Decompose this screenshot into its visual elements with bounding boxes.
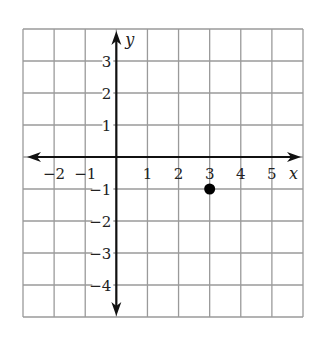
y-tick-label: −1 <box>89 181 111 199</box>
x-tick-label: 3 <box>205 165 215 183</box>
x-tick-label: 1 <box>143 165 153 183</box>
y-tick-label: 3 <box>102 53 112 71</box>
plotted-points <box>204 184 215 195</box>
x-tick-label: −2 <box>43 165 65 183</box>
plotted-point <box>204 184 215 195</box>
x-tick-label: 2 <box>174 165 184 183</box>
y-tick-label: −2 <box>89 213 111 231</box>
x-axis-label: x <box>289 164 298 183</box>
tick-labels: −2−112345321−1−2−3−4 <box>43 52 277 295</box>
y-tick-label: −4 <box>89 277 111 295</box>
y-tick-label: 2 <box>102 85 112 103</box>
y-axis-label: y <box>124 30 135 49</box>
x-tick-label: 4 <box>236 165 246 183</box>
y-tick-label: 1 <box>102 117 112 135</box>
y-tick-label: −3 <box>89 245 111 263</box>
axes <box>27 31 301 316</box>
x-tick-label: 5 <box>267 165 277 183</box>
coordinate-plane: −2−112345321−1−2−3−4 x y <box>0 0 328 338</box>
